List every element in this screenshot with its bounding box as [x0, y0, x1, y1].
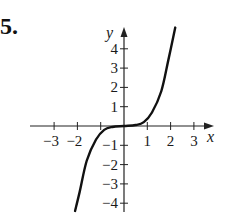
- y-axis-label: y: [104, 24, 114, 42]
- y-tick-label: −2: [102, 157, 118, 173]
- x-axis-label: x: [206, 128, 214, 145]
- y-tick-label: −3: [102, 176, 118, 192]
- y-tick-label: 2: [111, 79, 119, 95]
- y-tick-label: −4: [102, 195, 118, 211]
- y-tick-label: 3: [111, 60, 119, 76]
- y-tick-label: 4: [111, 41, 119, 57]
- x-tick-label: −2: [66, 133, 82, 149]
- x-tick-label: 3: [190, 133, 198, 149]
- graph: 5. −3−2123 −4−3−2−11234 x y: [0, 0, 225, 220]
- y-axis-arrow-icon: [121, 27, 128, 37]
- problem-number: 5.: [0, 13, 18, 39]
- x-tick-label: 1: [144, 133, 152, 149]
- x-tick-label: −3: [43, 133, 59, 149]
- x-tick-label: 2: [167, 133, 175, 149]
- y-tick-label: 1: [111, 99, 119, 115]
- y-tick-label: −1: [102, 137, 118, 153]
